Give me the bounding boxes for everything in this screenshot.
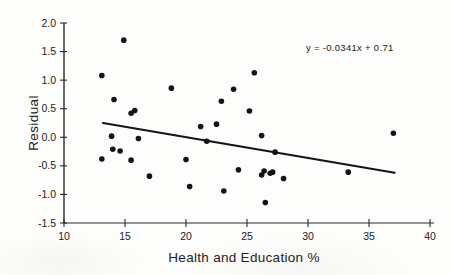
x-tick-label: 25 xyxy=(241,230,253,242)
y-tick-label: 1.5 xyxy=(41,45,56,57)
data-point xyxy=(183,157,189,163)
x-axis-title: Health and Education % xyxy=(168,250,319,265)
y-tick-label: 1.0 xyxy=(41,74,56,86)
data-point xyxy=(252,70,258,76)
y-tick-label: -0.5 xyxy=(38,159,56,171)
x-tick-label: 10 xyxy=(58,230,70,242)
data-point xyxy=(259,133,265,139)
y-tick-label: 0.5 xyxy=(41,102,56,114)
data-point xyxy=(219,98,225,104)
data-point xyxy=(136,136,142,142)
data-point xyxy=(221,188,227,194)
data-point xyxy=(187,184,193,190)
y-tick-label: 2.0 xyxy=(41,17,56,29)
data-point xyxy=(128,157,134,163)
data-point xyxy=(204,138,210,144)
trend-line xyxy=(103,123,395,173)
data-point xyxy=(270,169,276,175)
data-point xyxy=(147,173,153,179)
data-point xyxy=(272,149,278,155)
data-point xyxy=(198,124,204,130)
data-point xyxy=(117,148,123,154)
data-point xyxy=(99,73,105,79)
y-tick-label: 0.0 xyxy=(41,131,56,143)
data-point xyxy=(345,169,351,175)
data-point xyxy=(169,85,175,91)
x-tick-label: 40 xyxy=(424,230,436,242)
y-tick-label: -1.0 xyxy=(38,188,56,200)
data-point xyxy=(109,133,115,139)
data-point xyxy=(214,121,220,127)
data-point xyxy=(281,176,287,182)
x-tick-label: 35 xyxy=(363,230,375,242)
data-point xyxy=(99,156,105,162)
data-point xyxy=(132,108,138,114)
data-point xyxy=(259,172,265,178)
x-tick-label: 15 xyxy=(119,230,131,242)
x-tick-label: 30 xyxy=(302,230,314,242)
data-point xyxy=(263,200,269,206)
y-axis-title: Residual xyxy=(26,95,41,151)
data-point xyxy=(391,130,397,136)
data-point xyxy=(247,108,253,114)
data-point xyxy=(236,167,242,173)
equation-annotation: y = -0.0341x + 0.71 xyxy=(306,42,394,53)
scatter-chart: 101520253035402.01.51.00.50.0-0.5-1.0-1.… xyxy=(0,0,452,275)
x-tick-label: 20 xyxy=(180,230,192,242)
data-point xyxy=(121,37,127,43)
data-point xyxy=(231,86,237,92)
data-point xyxy=(110,146,116,152)
y-tick-label: -1.5 xyxy=(38,217,56,229)
data-point xyxy=(111,97,117,103)
